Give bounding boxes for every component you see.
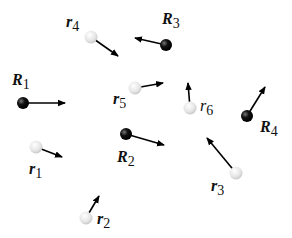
electron-r5: r5 xyxy=(113,82,163,112)
electron-r1: r1 xyxy=(29,141,62,182)
white-sphere-icon xyxy=(230,167,243,180)
particle-label: r1 xyxy=(29,160,42,181)
velocity-arrow-icon xyxy=(207,138,236,173)
black-sphere-icon xyxy=(17,97,29,109)
white-sphere-icon xyxy=(129,82,142,95)
particle-label: r4 xyxy=(66,13,79,34)
particles-layer: R1r4R3r5r6R4r1R2r2r3 xyxy=(11,10,278,231)
particle-label: R3 xyxy=(161,10,180,31)
particle-label: r6 xyxy=(200,97,213,118)
white-sphere-icon xyxy=(184,102,197,115)
particle-label: r2 xyxy=(97,210,110,231)
particle-label: R4 xyxy=(259,118,278,139)
white-sphere-icon xyxy=(30,141,43,154)
electron-r2: r2 xyxy=(80,196,111,231)
black-sphere-icon xyxy=(241,110,253,122)
electron-r6: r6 xyxy=(184,83,214,118)
nucleus-R4: R4 xyxy=(241,87,278,139)
particle-label: R1 xyxy=(11,71,30,92)
black-sphere-icon xyxy=(160,39,172,51)
particle-diagram: R1r4R3r5r6R4r1R2r2r3 xyxy=(0,0,292,238)
nucleus-R1: R1 xyxy=(11,71,65,109)
particle-label: R2 xyxy=(116,148,135,169)
white-sphere-icon xyxy=(80,212,93,225)
particle-label: r3 xyxy=(211,177,224,198)
white-sphere-icon xyxy=(85,31,98,44)
electron-r3: r3 xyxy=(207,138,243,198)
black-sphere-icon xyxy=(120,128,132,140)
nucleus-R3: R3 xyxy=(135,10,180,51)
particle-label: r5 xyxy=(113,90,126,111)
electron-r4: r4 xyxy=(66,13,118,56)
nucleus-R2: R2 xyxy=(116,128,164,169)
